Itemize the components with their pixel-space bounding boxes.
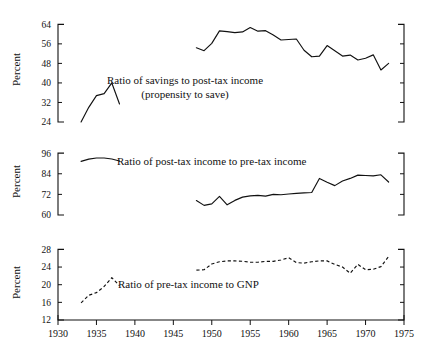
x-tick-label: 1965 — [317, 328, 337, 339]
x-tick-label: 1940 — [125, 328, 145, 339]
panel-3-ytick-label: 28 — [42, 245, 52, 255]
panel-3-ytick-label: 12 — [42, 315, 52, 325]
panel-2-axis-title: Percent — [10, 165, 22, 198]
panel-2-ytick-label: 60 — [42, 210, 52, 220]
panel-1-axis-title: Percent — [10, 53, 22, 86]
x-tick-label: 1950 — [202, 328, 222, 339]
x-tick-label: 1945 — [163, 328, 183, 339]
panel-2-right-axis — [398, 153, 404, 215]
x-tick-label: 1975 — [394, 328, 414, 339]
panel-3-ytick-label: 16 — [42, 298, 52, 308]
panel-2-ytick-label: 84 — [42, 169, 52, 179]
panel-3-ytick-label: 24 — [42, 262, 52, 272]
panel-1-series-2 — [196, 28, 388, 70]
panel-1-right-axis — [398, 24, 404, 122]
panel-2-ytick-label: 96 — [42, 149, 52, 159]
panel-1-series-1 — [81, 83, 119, 122]
x-tick-label: 1970 — [356, 328, 376, 339]
panel-3-axis-title: Percent — [10, 266, 22, 299]
panel-3-series-2 — [196, 256, 388, 273]
panel-3-ytick-label: 20 — [42, 280, 52, 290]
economic-ratios-figure: 243240485664Percent60728496Percent121620… — [0, 0, 425, 359]
panel-1-ytick-label: 64 — [42, 20, 52, 30]
panel-2-annotation: Ratio of post-tax income to pre-tax inco… — [117, 155, 307, 167]
panel-1-annotation-line1: Ratio of savings to post-tax income — [107, 74, 263, 86]
panel-1-ytick-label: 40 — [42, 78, 52, 88]
panel-1-ytick-label: 24 — [42, 117, 52, 127]
panel-3-series-1 — [81, 278, 119, 303]
panel-1-ytick-label: 48 — [42, 59, 52, 69]
x-tick-label: 1930 — [48, 328, 68, 339]
panel-2-left-axis — [58, 153, 64, 215]
panel-2-series-1 — [81, 158, 119, 161]
x-tick-label: 1960 — [279, 328, 299, 339]
panel-1-ytick-label: 32 — [42, 98, 52, 108]
x-tick-label: 1955 — [240, 328, 260, 339]
panel-1-ytick-label: 56 — [42, 39, 52, 49]
panel-3-annotation: Ratio of pre-tax income to GNP — [118, 278, 259, 290]
figure-canvas: 243240485664Percent60728496Percent121620… — [0, 0, 425, 359]
x-axis: 1930193519401945195019551960196519701975 — [48, 315, 414, 339]
panel-2-ytick-label: 72 — [42, 190, 52, 200]
x-tick-label: 1935 — [86, 328, 106, 339]
panel-1-left-axis — [58, 24, 64, 122]
panel-2-series-2 — [196, 175, 388, 206]
panel-1-annotation-line2: (propensity to save) — [141, 88, 229, 101]
